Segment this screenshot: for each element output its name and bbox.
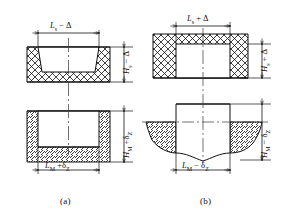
label-a-bottom-width: LM +δZ (45, 160, 70, 172)
label-b-bottom-width: LM − δZ (182, 160, 209, 172)
panel-a (27, 30, 133, 174)
label-b-bottom-height: HM − δZ (259, 130, 271, 158)
panel-b-mold (146, 104, 262, 161)
label-b-top-height: Hs + Δ (259, 49, 271, 72)
mold-dimension-figure (0, 0, 286, 218)
label-a-bottom-height: HM +δZ (121, 132, 133, 158)
label-a-top-width: Ls − Δ (50, 20, 72, 32)
panel-b-part (153, 34, 248, 78)
label-b-top-width: Ls + Δ (187, 13, 209, 25)
caption-panel-b: (b) (200, 196, 211, 206)
panel-b (142, 22, 271, 174)
caption-panel-a: (a) (60, 196, 71, 206)
label-a-top-height: Hs − Δ (121, 51, 133, 74)
